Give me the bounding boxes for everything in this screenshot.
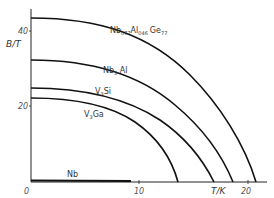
series-v3ga-curve bbox=[31, 98, 178, 182]
y-tick-label-20: 20 bbox=[18, 102, 28, 111]
x-tick-label-0: 0 bbox=[24, 187, 29, 196]
x-axis-label: T/K bbox=[211, 186, 227, 196]
x-tick-label-10: 10 bbox=[134, 187, 144, 196]
series-label-nb3al: Nb3 Al bbox=[103, 66, 128, 76]
y-tick-label-40: 40 bbox=[18, 27, 28, 36]
critical-field-chart: 40 20 0 10 20 B/T T/K Nb077Al046Ge77 Nb3… bbox=[0, 0, 274, 198]
y-axis-label: B/T bbox=[6, 39, 22, 49]
series-label-v3ga: V3Ga bbox=[84, 110, 104, 120]
series-nb-curve bbox=[31, 181, 131, 182]
series-label-nb: Nb bbox=[67, 170, 78, 179]
series-label-nb-al-ge: Nb077Al046Ge77 bbox=[110, 26, 167, 36]
series-v3si-curve bbox=[31, 88, 214, 182]
series-label-v3si: V3Si bbox=[95, 87, 111, 97]
x-tick-label-20: 20 bbox=[241, 187, 251, 196]
